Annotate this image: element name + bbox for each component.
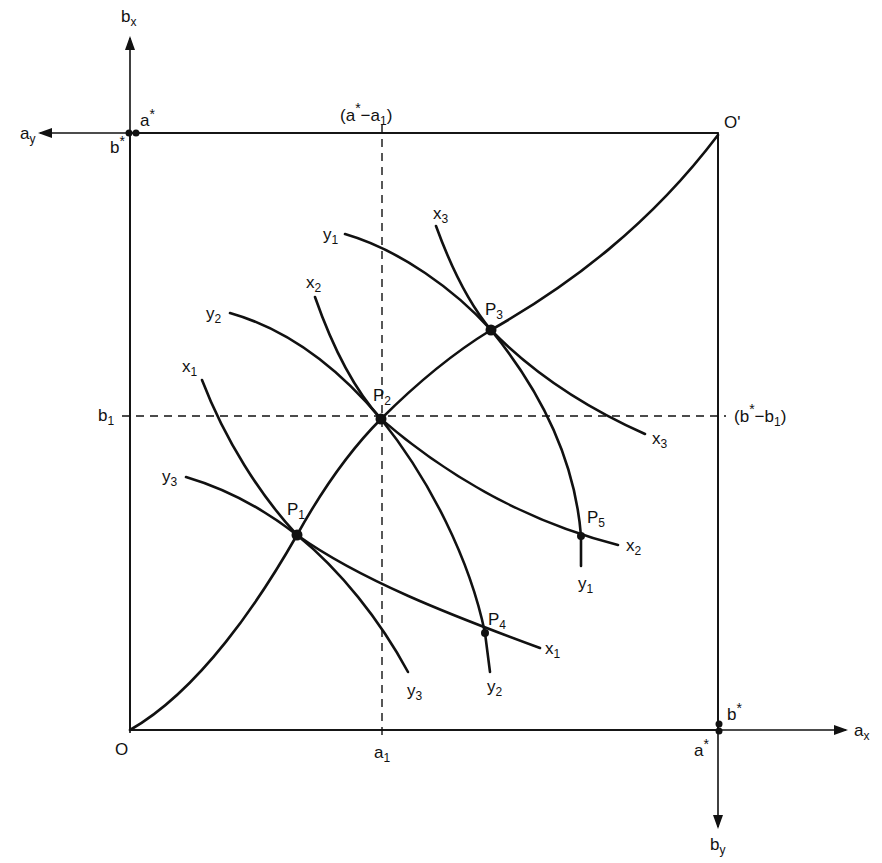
point-p5: [577, 532, 585, 540]
point-p4: [481, 629, 489, 637]
origin-o-prime-label: O': [724, 113, 740, 132]
b-star-point-top: [126, 130, 133, 137]
a-star-label-bottom: a*: [694, 736, 709, 760]
p4-label: P4: [488, 610, 506, 632]
ax-axis-label: ax: [854, 721, 869, 743]
y2-label-end: y2: [487, 677, 503, 699]
edgeworth-box-frame: [130, 133, 718, 730]
a1-label: a1: [374, 743, 390, 765]
a-star-label-top: a*: [140, 106, 155, 130]
y3-label-top: y3: [162, 467, 178, 489]
x2-label-top: x2: [306, 273, 322, 295]
p5-label: P5: [587, 508, 605, 530]
point-p1: [292, 530, 303, 541]
b-star-point-bottom: [716, 721, 723, 728]
y2-label-top: y2: [206, 304, 222, 326]
b-star-label-bottom: b*: [727, 700, 742, 724]
x1-label-end: x1: [545, 639, 561, 661]
origin-o-label: O: [115, 740, 128, 759]
p2-label: P2: [373, 386, 391, 408]
y1-label-end: y1: [578, 574, 594, 596]
b-star-minus-b1-label: (b*−b1): [734, 401, 786, 429]
b1-label: b1: [98, 406, 114, 428]
contract-curve: [130, 135, 718, 730]
x2-label-end: x2: [626, 536, 642, 558]
indifference-curve-y2: [230, 313, 490, 672]
a-star-minus-a1-label: (a*−a1): [340, 100, 392, 128]
p1-label: P1: [287, 500, 305, 522]
ay-axis-label: ay: [20, 124, 35, 146]
a-star-point-bottom: [716, 728, 723, 735]
x3-label-top: x3: [433, 204, 449, 226]
x1-label-top: x1: [182, 357, 198, 379]
p3-label: P3: [485, 300, 503, 322]
edgeworth-box-diagram: bx ay ax by a* b* b* a* O O' a1 b1 (a*−a…: [0, 0, 882, 863]
a-star-point-top: [133, 130, 140, 137]
bx-axis-label: bx: [121, 7, 136, 29]
point-p2: [376, 414, 387, 425]
point-p3: [486, 325, 497, 336]
x3-label-end: x3: [652, 429, 668, 451]
indifference-curve-x2: [315, 297, 618, 545]
y3-label-end: y3: [407, 681, 423, 703]
by-axis-label: by: [710, 835, 725, 857]
y1-label-top: y1: [323, 225, 339, 247]
b-star-label-top: b*: [110, 133, 125, 157]
